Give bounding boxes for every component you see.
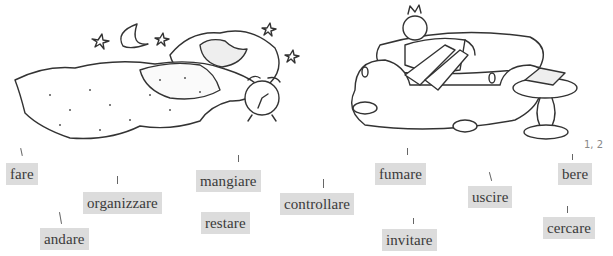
word-label-uscire: uscire bbox=[468, 186, 512, 208]
bed-sleeping-illustration bbox=[0, 0, 310, 150]
connector-tick bbox=[407, 148, 408, 155]
star-icon bbox=[262, 23, 276, 36]
word-label-andare: andare bbox=[40, 228, 89, 250]
star-icon bbox=[155, 33, 169, 46]
word-label-organizzare: organizzare bbox=[83, 192, 162, 214]
connector-tick bbox=[59, 212, 62, 224]
moon-icon bbox=[121, 24, 148, 48]
word-label-fumare: fumare bbox=[375, 163, 426, 185]
connector-tick bbox=[572, 154, 573, 160]
star-icon bbox=[285, 50, 299, 63]
connector-tick bbox=[489, 172, 492, 181]
word-label-restare: restare bbox=[201, 212, 250, 234]
word-label-mangiare: mangiare bbox=[196, 170, 261, 192]
connector-tick bbox=[117, 176, 118, 184]
connector-tick bbox=[413, 218, 414, 224]
word-label-fare: fare bbox=[6, 163, 38, 185]
sofa-lounging-illustration bbox=[320, 0, 613, 170]
word-label-cercare: cercare bbox=[543, 217, 595, 239]
connector-tick bbox=[567, 206, 568, 213]
word-label-bere: bere bbox=[558, 163, 592, 185]
connector-tick bbox=[323, 179, 324, 188]
word-label-controllare: controllare bbox=[280, 193, 354, 215]
handwritten-note: 1, 2 bbox=[584, 139, 603, 150]
man-head bbox=[403, 16, 427, 40]
word-label-invitare: invitare bbox=[382, 229, 437, 251]
connector-tick bbox=[238, 155, 239, 162]
star-icon bbox=[92, 34, 109, 49]
